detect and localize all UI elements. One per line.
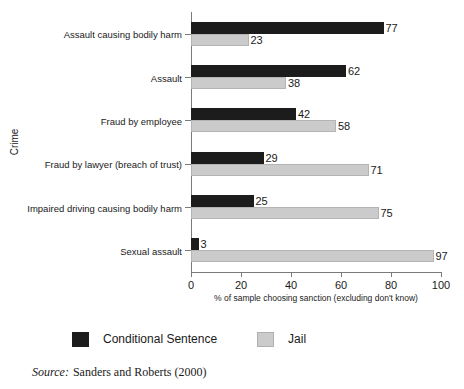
- category-label: Sexual assault: [120, 245, 182, 256]
- bar-0[interactable]: [191, 152, 264, 164]
- x-axis-tick: [341, 272, 342, 277]
- y-axis-tick: [185, 34, 191, 35]
- bar-value-label: 62: [348, 65, 360, 77]
- x-axis-tick: [291, 272, 292, 277]
- x-axis-tick-label: 100: [432, 279, 450, 291]
- bar-0[interactable]: [191, 65, 346, 77]
- bar-group: 2575Impaired driving causing bodily harm: [191, 195, 441, 220]
- x-axis-tick: [191, 272, 192, 277]
- legend-label-conditional-sentence: Conditional Sentence: [103, 332, 217, 346]
- y-axis-tick: [185, 77, 191, 78]
- legend-item-jail[interactable]: Jail: [257, 332, 306, 347]
- x-axis-tick-label: 60: [335, 279, 347, 291]
- bar-0[interactable]: [191, 195, 254, 207]
- bar-value-label: 29: [266, 152, 278, 164]
- x-axis-tick: [241, 272, 242, 277]
- bar-row: 25: [191, 195, 441, 207]
- x-axis-line: [191, 272, 441, 273]
- bar-0[interactable]: [191, 238, 199, 250]
- source-note-label: Source:: [32, 365, 69, 379]
- y-axis-tick: [185, 164, 191, 165]
- y-axis-tick: [185, 250, 191, 251]
- bar-0[interactable]: [191, 22, 384, 34]
- bar-row: 42: [191, 108, 441, 120]
- legend-swatch-icon-conditional-sentence: [72, 332, 89, 347]
- bar-row: 62: [191, 65, 441, 77]
- bar-1[interactable]: [191, 164, 369, 176]
- bar-row: 23: [191, 34, 441, 46]
- bar-group: 2971Fraud by lawyer (breach of trust): [191, 152, 441, 177]
- bar-group: 6238Assault: [191, 65, 441, 90]
- y-axis-tick: [185, 207, 191, 208]
- bar-row: 29: [191, 152, 441, 164]
- bar-group: 7723Assault causing bodily harm: [191, 22, 441, 47]
- bar-value-label: 75: [381, 207, 393, 219]
- x-axis-tick-label: 20: [235, 279, 247, 291]
- bar-row: 71: [191, 164, 441, 176]
- bar-value-label: 42: [298, 108, 310, 120]
- bar-value-label: 97: [436, 250, 448, 262]
- bar-row: 38: [191, 77, 441, 89]
- bar-value-label: 71: [371, 164, 383, 176]
- category-label: Assault: [151, 72, 182, 83]
- legend-item-conditional-sentence[interactable]: Conditional Sentence: [72, 332, 217, 347]
- bar-1[interactable]: [191, 250, 434, 262]
- bar-0[interactable]: [191, 108, 296, 120]
- bar-group: 397Sexual assault: [191, 238, 441, 263]
- category-label: Assault causing bodily harm: [64, 29, 182, 40]
- legend-label-jail: Jail: [288, 332, 306, 346]
- category-label: Fraud by lawyer (breach of trust): [45, 159, 182, 170]
- bar-1[interactable]: [191, 207, 379, 219]
- x-axis-tick-label: 0: [188, 279, 194, 291]
- x-axis-tick: [391, 272, 392, 277]
- category-label: Fraud by employee: [101, 115, 182, 126]
- bar-value-label: 38: [288, 77, 300, 89]
- legend-swatch-icon-jail: [257, 332, 274, 347]
- bar-row: 77: [191, 22, 441, 34]
- bar-value-label: 58: [338, 120, 350, 132]
- x-axis-tick-label: 80: [385, 279, 397, 291]
- bar-row: 3: [191, 238, 441, 250]
- chart-legend: Conditional Sentence Jail: [72, 330, 306, 348]
- plot-area: 7723Assault causing bodily harm6238Assau…: [191, 12, 441, 272]
- bar-value-label: 23: [251, 34, 263, 46]
- bar-value-label: 25: [256, 195, 268, 207]
- bar-row: 58: [191, 120, 441, 132]
- bar-row: 75: [191, 207, 441, 219]
- bar-value-label: 77: [386, 22, 398, 34]
- y-axis-title: Crime: [9, 129, 20, 156]
- bar-chart-figure: Crime 7723Assault causing bodily harm623…: [0, 0, 464, 389]
- category-label: Impaired driving causing bodily harm: [27, 202, 182, 213]
- x-axis-tick: [441, 272, 442, 277]
- x-axis-tick-label: 40: [285, 279, 297, 291]
- y-axis-tick: [185, 120, 191, 121]
- source-note: Source:Sanders and Roberts (2000): [32, 365, 207, 380]
- bar-group: 4258Fraud by employee: [191, 108, 441, 133]
- x-axis-title: % of sample choosing sanction (excluding…: [191, 293, 441, 303]
- bar-1[interactable]: [191, 120, 336, 132]
- bar-1[interactable]: [191, 34, 249, 46]
- bar-row: 97: [191, 250, 441, 262]
- bar-value-label: 3: [201, 238, 207, 250]
- bar-1[interactable]: [191, 77, 286, 89]
- source-note-text: Sanders and Roberts (2000): [73, 365, 207, 379]
